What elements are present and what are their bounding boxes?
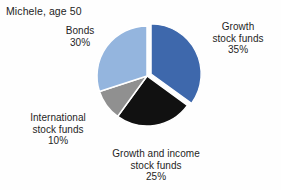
pie-label-bonds: Bonds 30%	[43, 25, 117, 48]
pie-label-growth-income-line1: Growth and income	[93, 148, 219, 160]
pie-label-growth-line1: Growth	[196, 21, 280, 33]
pie-label-international-stock-funds: International stock funds 10%	[14, 112, 102, 147]
pie-label-growth-income-percent: 25%	[93, 171, 219, 183]
pie-label-international-line1: International	[14, 112, 102, 124]
pie-chart-figure: Michele, age 50 Bonds 30% Growth stock f…	[0, 0, 281, 190]
page-title: Michele, age 50	[6, 5, 82, 17]
pie-label-bonds-line1: Bonds	[43, 25, 117, 37]
pie-label-international-percent: 10%	[14, 135, 102, 147]
pie-label-growth-line2: stock funds	[196, 33, 280, 45]
pie-label-growth-and-income-stock-funds: Growth and income stock funds 25%	[93, 148, 219, 183]
pie-label-growth-stock-funds: Growth stock funds 35%	[196, 21, 280, 56]
pie-label-growth-percent: 35%	[196, 44, 280, 56]
pie-label-growth-income-line2: stock funds	[93, 160, 219, 172]
pie-label-bonds-percent: 30%	[43, 37, 117, 49]
pie-label-international-line2: stock funds	[14, 124, 102, 136]
